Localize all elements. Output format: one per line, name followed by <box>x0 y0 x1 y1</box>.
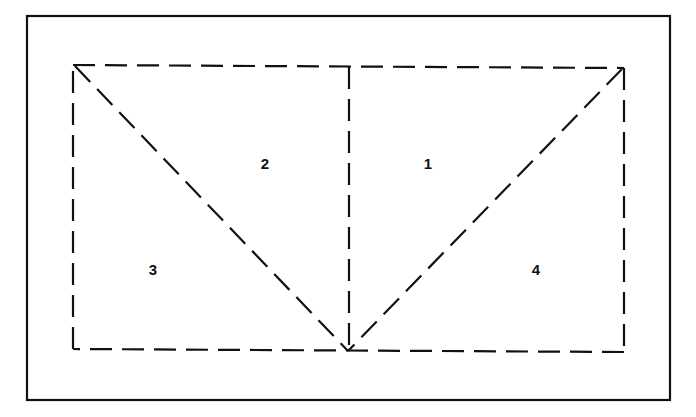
region-label-3: 3 <box>149 261 157 278</box>
dashed-right-diagonal <box>348 69 622 351</box>
region-label-1: 1 <box>424 155 432 172</box>
diagram-canvas: 1 2 3 4 <box>0 0 696 417</box>
region-label-4: 4 <box>532 261 541 278</box>
region-label-2: 2 <box>261 155 269 172</box>
dashed-left-diagonal <box>75 66 348 351</box>
